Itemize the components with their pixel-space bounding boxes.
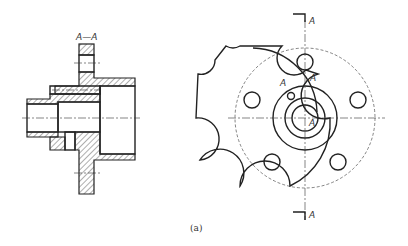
label-a-center: A [308,118,315,128]
front-view: A A A A A [196,14,385,220]
label-a-right: A [309,73,316,83]
caption: (a) [190,223,202,233]
label-a-bottom: A [308,210,315,220]
section-view: A—A [22,32,140,194]
label-a-top: A [308,16,315,26]
section-label: A—A [75,32,97,42]
label-a-left: A [279,78,286,88]
drawing: A—A A A A A [0,0,408,246]
